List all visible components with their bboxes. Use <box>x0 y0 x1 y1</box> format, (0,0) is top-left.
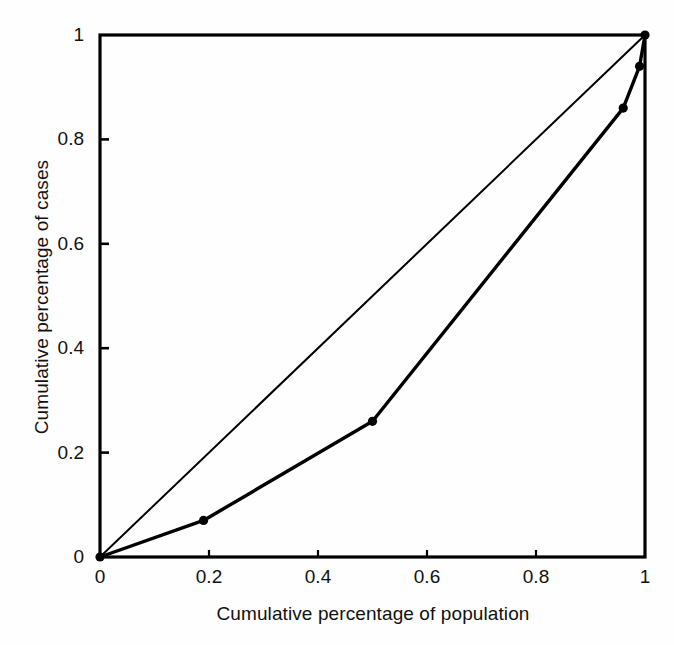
lorenz-curve-figure: Cumulative percentage of cases Cumulativ… <box>0 0 674 645</box>
plot-area <box>0 0 674 645</box>
data-point-1-5 <box>640 30 649 39</box>
data-point-1-4 <box>635 62 644 71</box>
data-point-1-2 <box>368 417 377 426</box>
data-series-group <box>95 30 649 561</box>
data-point-1-1 <box>199 516 208 525</box>
data-point-1-0 <box>95 552 104 561</box>
series-line-0 <box>100 35 645 557</box>
data-point-1-3 <box>619 103 628 112</box>
